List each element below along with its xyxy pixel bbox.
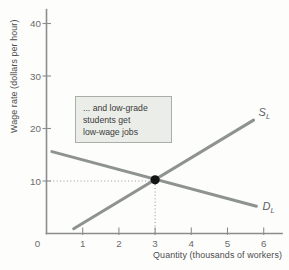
x-tick-label: 0 — [35, 238, 41, 249]
x-tick-label: 3 — [152, 238, 158, 249]
x-tick-label: 2 — [116, 238, 121, 249]
wage-rate-chart: 102030400123456SLDL ... and low-grade st… — [0, 0, 289, 270]
annotation-line: students get — [83, 114, 165, 126]
annotation-line: ... and low-grade — [83, 102, 165, 114]
supply-label: SL — [259, 106, 271, 121]
annotation-line: low-wage jobs — [83, 126, 165, 138]
x-axis-title: Quantity (thousands of workers) — [153, 250, 282, 260]
y-axis-title: Wage rate (dollars per hour) — [9, 20, 19, 133]
y-tick-label: 40 — [30, 18, 41, 29]
y-tick-label: 30 — [30, 71, 41, 82]
equilibrium-point — [151, 175, 160, 184]
y-tick-label: 10 — [30, 176, 41, 187]
demand-label: DL — [262, 200, 274, 215]
x-tick-label: 6 — [261, 238, 267, 249]
y-tick-label: 20 — [30, 123, 41, 134]
x-tick-label: 1 — [80, 238, 85, 249]
x-tick-label: 4 — [189, 238, 195, 249]
annotation-box: ... and low-grade students get low-wage … — [75, 96, 172, 143]
x-tick-label: 5 — [225, 238, 231, 249]
